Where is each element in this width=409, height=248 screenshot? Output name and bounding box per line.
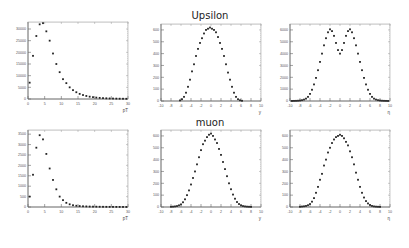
x-tick-label: -8 [298, 210, 301, 214]
data-point [377, 99, 379, 101]
data-point [307, 96, 309, 98]
y-tick-label: 500 [153, 40, 159, 44]
data-point [212, 135, 214, 137]
y-tick-label: 0 [157, 99, 159, 103]
data-point [109, 98, 111, 100]
data-point [355, 172, 357, 174]
data-point [385, 100, 387, 102]
data-point [303, 205, 305, 207]
data-point [329, 28, 331, 30]
data-point [192, 177, 194, 179]
y-tick-label: 1000 [280, 87, 288, 91]
x-tick-label: -6 [179, 210, 182, 214]
y-tick-label: 3500 [18, 132, 26, 136]
data-point [345, 141, 347, 143]
data-point [49, 40, 51, 42]
plot-frame [290, 130, 390, 207]
data-point [102, 97, 104, 99]
data-point [75, 205, 77, 207]
plot-frame [161, 24, 261, 101]
data-point [233, 92, 235, 94]
data-point [105, 206, 107, 208]
data-point [180, 203, 182, 205]
data-point [199, 42, 201, 44]
data-point [39, 23, 41, 25]
data-point [72, 89, 74, 91]
x-tick-label: -4 [189, 210, 192, 214]
data-point [349, 150, 351, 152]
data-point [387, 100, 389, 102]
data-point [122, 98, 124, 100]
x-tick-label: -8 [298, 104, 301, 108]
x-tick-label: -6 [308, 104, 311, 108]
y-tick-label: 4000 [280, 52, 288, 56]
data-point [337, 135, 339, 137]
data-point [224, 168, 226, 170]
data-point [191, 70, 193, 72]
data-point [339, 53, 341, 55]
x-tick-label: -2 [199, 104, 202, 108]
data-point [345, 35, 347, 37]
y-tick-label: 400 [153, 52, 159, 56]
y-tick-label: 5000 [280, 40, 288, 44]
data-point [174, 206, 176, 208]
data-point [357, 53, 359, 55]
data-point [365, 84, 367, 86]
data-point [375, 206, 377, 208]
y-tick-label: 300 [282, 170, 288, 174]
x-tick-label: 0 [339, 210, 341, 214]
x-tick-label: 8 [250, 104, 252, 108]
x-tick-label: 8 [379, 104, 381, 108]
data-point [85, 95, 87, 97]
data-point [341, 135, 343, 137]
panel-muon-pt: 0510152025300500100015002000250030003500… [0, 123, 140, 228]
x-tick-label: -8 [169, 210, 172, 214]
x-tick-label: -10 [287, 210, 292, 214]
x-tick-label: 15 [76, 102, 80, 106]
data-point [232, 194, 234, 196]
data-point [347, 145, 349, 147]
data-point [369, 204, 371, 206]
data-point [45, 153, 47, 155]
data-point [172, 206, 174, 208]
data-point [371, 205, 373, 207]
data-point [383, 100, 385, 102]
data-point [72, 204, 74, 206]
data-point [62, 78, 64, 80]
y-tick-label: 2500 [18, 153, 26, 157]
data-point [214, 139, 216, 141]
data-point [206, 136, 208, 138]
data-point [301, 99, 303, 101]
data-point [359, 61, 361, 63]
data-point [305, 98, 307, 100]
data-point [125, 206, 127, 208]
x-tick-label: -2 [328, 104, 331, 108]
data-point [343, 137, 345, 139]
data-point [351, 156, 353, 158]
data-point [331, 30, 333, 32]
x-tick-label: 2 [220, 210, 222, 214]
data-point [223, 55, 225, 57]
data-point [341, 49, 343, 51]
data-point [178, 204, 180, 206]
data-point [198, 156, 200, 158]
y-tick-label: 600 [282, 134, 288, 138]
y-tick-label: 500 [20, 195, 26, 199]
y-tick-label: 15000 [16, 62, 26, 66]
data-point [373, 98, 375, 100]
x-tick-label: 4 [230, 104, 232, 108]
x-tick-label: 5 [44, 210, 46, 214]
data-point [29, 196, 31, 198]
data-point [186, 194, 188, 196]
data-point [82, 94, 84, 96]
data-point [361, 69, 363, 71]
x-tick-label: 30 [126, 210, 130, 214]
y-tick-label: 500 [282, 146, 288, 150]
x-tick-label: -2 [199, 210, 202, 214]
y-tick-label: 100 [153, 87, 159, 91]
x-axis-label: pT [123, 108, 129, 113]
data-point [59, 71, 61, 73]
data-point [125, 98, 127, 100]
y-tick-label: 100 [153, 193, 159, 197]
data-point [291, 100, 293, 102]
